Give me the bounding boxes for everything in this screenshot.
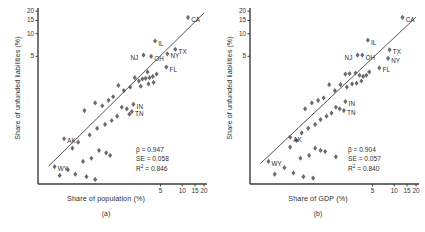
se-value-b: SE = 0.057 [348, 155, 381, 164]
data-point-marker [97, 148, 101, 153]
data-point-marker [313, 122, 317, 127]
data-point-marker [306, 126, 310, 131]
beta-value-b: β = 0.904 [348, 146, 381, 155]
stats-box-b: β = 0.904 SE = 0.057 R2 = 0.840 [348, 146, 381, 174]
data-point-marker [107, 98, 111, 103]
data-point-marker [359, 78, 363, 83]
data-point-marker [88, 132, 92, 137]
data-point-marker [151, 74, 155, 79]
r2-number-b: = 0.840 [355, 165, 379, 172]
regression-line-a [36, 11, 205, 186]
data-point-marker [58, 173, 62, 178]
y-tick-10: 10 [230, 30, 246, 37]
se-value-a: SE = 0.058 [136, 155, 169, 164]
data-point-marker [70, 146, 74, 151]
data-point-marker [334, 154, 338, 159]
data-point-marker [316, 98, 320, 103]
point-label-nj: NJ [131, 54, 139, 61]
data-point-marker [165, 51, 169, 56]
data-point-marker [366, 38, 370, 43]
data-point-marker [152, 80, 156, 85]
data-point-marker [139, 84, 143, 89]
point-label-ca: CA [406, 16, 415, 23]
data-point-marker [149, 54, 153, 59]
data-point-marker [95, 126, 99, 131]
data-point-marker [327, 82, 331, 87]
data-point-marker [120, 105, 124, 110]
point-label-in: IN [137, 103, 143, 110]
data-point-marker [146, 81, 150, 86]
point-label-ny: NY [391, 57, 400, 64]
figure-scatter-pair: Share of unfunded liabilities (%) Share … [0, 0, 425, 232]
stats-box-a: β = 0.947 SE = 0.058 R2 = 0.846 [136, 146, 169, 174]
data-point-marker [323, 149, 327, 154]
point-label-ak: AK [293, 136, 302, 143]
data-point-marker [110, 118, 114, 123]
data-point-marker [131, 102, 135, 107]
data-point-marker [73, 172, 77, 177]
data-point-marker [300, 130, 304, 135]
point-label-il: IL [371, 39, 376, 46]
data-point-marker [125, 106, 129, 111]
point-label-fl: FL [383, 66, 390, 73]
y-tick-15: 15 [18, 16, 34, 23]
y-tick-5: 5 [230, 52, 246, 59]
point-label-oh: OH [365, 54, 375, 61]
data-point-marker [115, 114, 119, 119]
data-point-marker [173, 47, 177, 52]
x-tick-5: 5 [153, 187, 169, 194]
data-point-marker [377, 65, 381, 70]
data-point-marker [311, 175, 315, 180]
data-point-marker [313, 146, 317, 151]
x-tick-5: 5 [365, 187, 381, 194]
panel-b: Share of unfunded liabilities (%) Share … [212, 0, 424, 232]
data-point-marker [89, 156, 93, 161]
data-point-marker [266, 159, 270, 164]
data-points-a [53, 15, 190, 182]
x-axis-label-b: Share of GDP (%) [212, 194, 424, 203]
panel-caption-b: (b) [212, 210, 424, 217]
point-label-fl: FL [169, 66, 176, 73]
data-point-marker [350, 81, 354, 86]
data-point-marker [345, 84, 349, 89]
data-point-marker [330, 110, 334, 115]
data-point-marker [53, 164, 57, 169]
y-tick-10: 10 [18, 30, 34, 37]
data-point-marker [100, 103, 104, 108]
point-label-tn: TN [135, 110, 144, 117]
y-tick-15: 15 [230, 16, 246, 23]
r2-number-a: = 0.846 [143, 165, 167, 172]
data-point-marker [356, 52, 360, 57]
data-point-marker [334, 105, 338, 110]
data-point-marker [367, 69, 371, 74]
data-point-marker [141, 52, 145, 57]
data-point-marker [322, 95, 326, 100]
data-point-marker [388, 47, 392, 52]
x-axis-label-a: Share of population (%) [0, 194, 212, 203]
data-point-marker [144, 76, 148, 81]
data-point-marker [291, 170, 295, 175]
data-point-marker [361, 74, 365, 79]
data-point-marker [155, 72, 159, 77]
data-point-marker [108, 153, 112, 158]
data-point-marker [360, 52, 364, 57]
data-point-marker [319, 148, 323, 153]
data-point-marker [282, 165, 286, 170]
data-point-marker [355, 81, 359, 86]
point-label-tx: TX [393, 48, 401, 55]
data-point-marker [348, 71, 352, 76]
data-point-marker [116, 83, 120, 88]
data-point-marker [103, 122, 107, 127]
x-tick-20: 20 [196, 187, 212, 194]
y-axis-label-b: Share of unfunded liabilities (%) [226, 23, 234, 153]
data-point-marker [338, 106, 342, 111]
point-label-tn: TN [347, 109, 356, 116]
data-point-marker [84, 174, 88, 179]
data-point-marker [364, 73, 368, 78]
data-point-marker [153, 38, 157, 43]
data-point-marker [298, 156, 302, 161]
point-label-ak: AK [67, 137, 76, 144]
data-point-marker [62, 136, 66, 141]
y-tick-5: 5 [18, 52, 34, 59]
data-point-marker [81, 159, 85, 164]
